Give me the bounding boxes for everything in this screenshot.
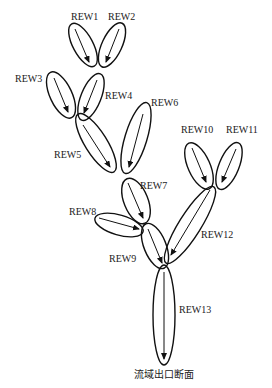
reach-rew11 bbox=[210, 139, 247, 193]
label-rew12: REW12 bbox=[201, 230, 233, 240]
label-rew8: REW8 bbox=[69, 207, 96, 217]
reach-rew6 bbox=[115, 99, 158, 176]
label-rew11: REW11 bbox=[226, 125, 258, 135]
label-rew13: REW13 bbox=[179, 305, 211, 315]
reach-rew13 bbox=[153, 265, 175, 365]
label-rew7: REW7 bbox=[140, 181, 167, 191]
label-rew6: REW6 bbox=[151, 98, 178, 108]
reach-rew1 bbox=[63, 19, 103, 71]
river-network-diagram bbox=[0, 0, 272, 388]
label-rew9: REW9 bbox=[109, 254, 136, 264]
label-rew10: REW10 bbox=[181, 125, 213, 135]
label-rew1: REW1 bbox=[71, 12, 98, 22]
label-rew3: REW3 bbox=[15, 74, 42, 84]
label-rew5: REW5 bbox=[54, 150, 81, 160]
label-rew4: REW4 bbox=[105, 91, 132, 101]
reach-rew10 bbox=[179, 139, 219, 194]
reach-rew3 bbox=[40, 68, 81, 123]
reach-rew5 bbox=[69, 108, 124, 177]
label-rew2: REW2 bbox=[108, 12, 135, 22]
reach-rew12 bbox=[157, 181, 223, 269]
reach-rew8 bbox=[92, 208, 146, 241]
outlet-label: 流域出口断面 bbox=[134, 366, 194, 381]
reach-rew2 bbox=[93, 19, 131, 71]
